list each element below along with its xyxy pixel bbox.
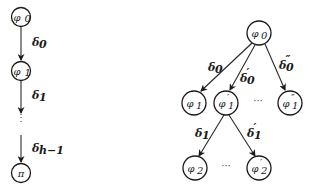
svg-text:2: 2 xyxy=(260,165,267,176)
edge-label-delta0-left: δ 0 xyxy=(31,36,47,51)
svg-text:1: 1 xyxy=(228,100,234,111)
svg-text:0: 0 xyxy=(215,63,223,76)
vertical-ellipsis: ⋮ xyxy=(16,112,26,123)
edge-label-delta1-prime: δ ′ 1 xyxy=(246,121,262,142)
svg-text:φ: φ xyxy=(251,163,258,174)
node-phi2-prime: φ ′ 2 xyxy=(247,156,271,180)
svg-text:φ: φ xyxy=(282,98,289,109)
node-pi-left: π xyxy=(12,164,31,183)
node-phi1-prime: φ ′ 1 xyxy=(214,91,238,115)
svg-text:φ: φ xyxy=(187,163,194,174)
edge-label-delta-h-1-left: δ h−1 xyxy=(31,142,64,157)
node-phi2: φ 2 xyxy=(183,156,207,180)
svg-text:0: 0 xyxy=(261,30,268,41)
node-phi0-left: φ 0 xyxy=(12,8,32,27)
svg-text:1: 1 xyxy=(39,91,47,104)
node-phi1: φ 1 xyxy=(182,91,206,115)
svg-text:0: 0 xyxy=(39,38,47,51)
svg-text:h−1: h−1 xyxy=(39,144,64,157)
left-chain: ⋮ φ 0 φ 1 π δ 0 δ 1 δ h−1 xyxy=(12,8,64,183)
svg-text:1: 1 xyxy=(254,129,262,142)
diagram-canvas: ⋮ φ 0 φ 1 π δ 0 δ 1 δ h−1 xyxy=(0,0,316,190)
svg-text:0: 0 xyxy=(25,13,32,24)
right-tree: φ 0 φ 1 φ ′ 1 ··· φ ″ 1 φ 2 ··· φ xyxy=(182,21,302,180)
svg-text:φ: φ xyxy=(13,12,20,23)
svg-text:φ: φ xyxy=(186,98,193,109)
svg-text:0: 0 xyxy=(286,61,294,74)
node-phi1-left: φ 1 xyxy=(12,62,31,81)
svg-text:0: 0 xyxy=(247,74,255,87)
edge-label-delta0: δ 0 xyxy=(207,61,223,76)
edge-label-delta0-double-prime: δ ″ 0 xyxy=(278,53,294,74)
horizontal-ellipsis-level2: ··· xyxy=(221,160,231,171)
svg-text:2: 2 xyxy=(196,165,203,176)
edge-label-delta1: δ 1 xyxy=(194,127,210,142)
node-phi0-root: φ 0 xyxy=(247,21,271,45)
svg-text:π: π xyxy=(17,168,25,179)
node-phi1-double-prime: φ ″ 1 xyxy=(278,91,302,115)
edge-label-delta1-left: δ 1 xyxy=(31,89,47,104)
svg-text:φ: φ xyxy=(13,66,20,77)
svg-text:1: 1 xyxy=(25,67,31,78)
svg-text:1: 1 xyxy=(202,129,210,142)
svg-text:φ: φ xyxy=(251,28,258,39)
horizontal-ellipsis-level1: ··· xyxy=(253,95,263,106)
svg-text:1: 1 xyxy=(292,100,298,111)
svg-text:φ: φ xyxy=(218,98,225,109)
svg-text:1: 1 xyxy=(196,100,202,111)
